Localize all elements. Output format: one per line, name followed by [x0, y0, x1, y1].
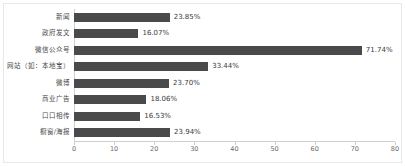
- bar-row: 23.70%: [74, 75, 395, 92]
- bar: [74, 46, 362, 55]
- bar-value-label: 16.53%: [144, 113, 171, 120]
- bar-row: 18.06%: [74, 92, 395, 109]
- bar-value-label: 23.94%: [174, 129, 201, 136]
- bar: [74, 112, 140, 121]
- bar-row: 23.94%: [74, 125, 395, 142]
- bar: [74, 128, 170, 137]
- bar: [74, 95, 146, 104]
- bar-value-label: 18.06%: [150, 96, 177, 103]
- x-axis-tick-label: 40: [230, 146, 238, 153]
- x-axis-tick-label: 80: [391, 146, 399, 153]
- category-label: 商业广告: [2, 96, 74, 103]
- bar: [74, 79, 169, 88]
- x-axis-tick-label: 10: [110, 146, 118, 153]
- bar-row: 33.44%: [74, 59, 395, 76]
- category-label: 口口相传: [2, 113, 74, 120]
- bar-chart-figure: 新闻政府发文微信公众号网站（如：本地宝）微博商业广告口口相传橱窗/海报 23.8…: [0, 0, 405, 166]
- plot-area: 23.85%16.07%71.74%33.44%23.70%18.06%16.5…: [74, 9, 395, 141]
- x-axis-tick-label: 50: [270, 146, 278, 153]
- category-label: 微信公众号: [2, 47, 74, 54]
- bar-value-label: 23.85%: [174, 14, 201, 21]
- bar: [74, 62, 208, 71]
- bar: [74, 29, 138, 38]
- category-label: 橱窗/海报: [2, 129, 74, 136]
- x-axis-tick-label: 20: [150, 146, 158, 153]
- bar-row: 16.07%: [74, 26, 395, 43]
- category-label: 新闻: [2, 14, 74, 21]
- x-axis: 01020304050607080: [74, 142, 395, 164]
- x-axis-tick-label: 70: [351, 146, 359, 153]
- x-axis-tick-label: 30: [190, 146, 198, 153]
- bar: [74, 13, 170, 22]
- category-label: 微博: [2, 80, 74, 87]
- x-axis-tick-label: 0: [72, 146, 76, 153]
- bar-value-label: 33.44%: [212, 63, 239, 70]
- x-axis-tick-label: 60: [311, 146, 319, 153]
- bar-row: 71.74%: [74, 42, 395, 59]
- bar-value-label: 71.74%: [366, 47, 393, 54]
- bar-row: 23.85%: [74, 9, 395, 26]
- category-axis-labels: 新闻政府发文微信公众号网站（如：本地宝）微博商业广告口口相传橱窗/海报: [0, 9, 74, 141]
- category-label: 网站（如：本地宝）: [2, 63, 74, 70]
- category-label: 政府发文: [2, 30, 74, 37]
- bar-value-label: 16.07%: [142, 30, 169, 37]
- bar-value-label: 23.70%: [173, 80, 200, 87]
- bar-row: 16.53%: [74, 108, 395, 125]
